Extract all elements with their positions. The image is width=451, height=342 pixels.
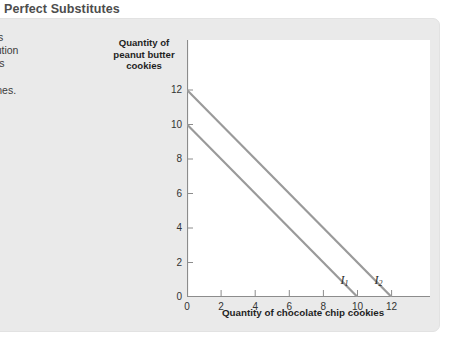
curve-label-base: I bbox=[375, 273, 379, 287]
x-axis-tick-labels: 024681012 bbox=[0, 0, 451, 342]
curve-label-I1: I1 bbox=[340, 273, 348, 288]
x-axis-title: Quantity of chocolate chip cookies bbox=[222, 307, 384, 318]
curve-label-I2: I2 bbox=[375, 273, 383, 288]
x-axis-tick-label: 0 bbox=[175, 301, 199, 312]
curve-label-subscript: 1 bbox=[344, 279, 348, 288]
figure-root: Perfect Substitutes ct substitutes te of… bbox=[0, 0, 451, 342]
curve-label-subscript: 2 bbox=[379, 279, 383, 288]
